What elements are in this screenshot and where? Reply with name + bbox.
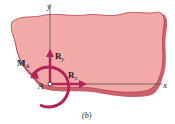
- point-a: [48, 82, 52, 86]
- rigid-body: [11, 12, 164, 92]
- y-axis-label: y: [46, 1, 51, 11]
- figure-caption: (b): [82, 111, 92, 120]
- point-a-label: A: [37, 81, 44, 91]
- x-axis-label: x: [162, 80, 167, 90]
- diagram-canvas: y x A Ry Rx MA (b): [0, 0, 175, 124]
- free-body-diagram: y x A Ry Rx MA (b): [0, 0, 175, 124]
